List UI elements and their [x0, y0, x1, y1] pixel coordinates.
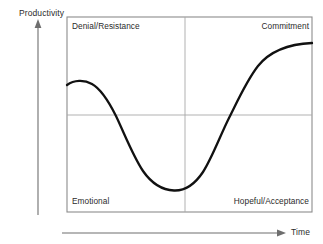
quadrant-label-commitment: Commitment [261, 21, 309, 31]
x-axis-arrow [62, 230, 286, 237]
quadrant-label-emotional: Emotional [72, 196, 109, 206]
chart-canvas [0, 0, 323, 244]
change-curve-figure: Productivity Time Denial/Resistance Comm… [0, 0, 323, 244]
productivity-curve [67, 43, 312, 191]
quadrant-label-hopeful-acceptance: Hopeful/Acceptance [234, 196, 309, 206]
plot-frame [67, 17, 312, 212]
y-axis-arrow [35, 19, 42, 215]
quadrant-label-denial-resistance: Denial/Resistance [72, 21, 140, 31]
